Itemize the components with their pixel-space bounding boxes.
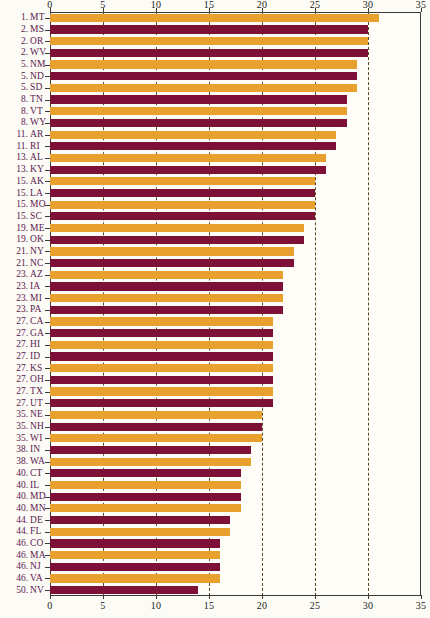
bar-rank-label: 8.	[0, 107, 28, 117]
bar	[50, 574, 220, 582]
bar-row: 27.GA	[0, 327, 430, 339]
bar-rank-label: 35.	[0, 422, 28, 432]
bar	[50, 364, 273, 372]
bar	[50, 481, 241, 489]
bar-row: 44.FL	[0, 526, 430, 538]
bar-row: 2.OR	[0, 35, 430, 47]
bar-category-label: CA	[30, 317, 46, 327]
bar	[50, 84, 357, 92]
bar-row: 46.NJ	[0, 561, 430, 573]
bar-rank-label: 40.	[0, 504, 28, 514]
bar-rank-label: 35.	[0, 410, 28, 420]
bar-rank-label: 46.	[0, 562, 28, 572]
bar-row: 46.CO	[0, 538, 430, 550]
bar-category-label: DE	[30, 516, 46, 526]
bar-rank-label: 13.	[0, 165, 28, 175]
bar	[50, 551, 220, 559]
bar-rank-label: 11.	[0, 130, 28, 140]
bar-row: 27.CA	[0, 316, 430, 328]
bar-rank-label: 21.	[0, 247, 28, 257]
bar-category-label: MD	[30, 492, 46, 502]
bar-rank-label: 35.	[0, 434, 28, 444]
bar-row: 27.ID	[0, 351, 430, 363]
bar-category-label: WV	[30, 48, 46, 58]
bar-rank-label: 23.	[0, 282, 28, 292]
bar	[50, 49, 368, 57]
bar-rank-label: 27.	[0, 317, 28, 327]
bar-row: 40.CT	[0, 468, 430, 480]
bar-rank-label: 5.	[0, 72, 28, 82]
bar-category-label: MI	[30, 294, 46, 304]
bar-row: 8.WY	[0, 117, 430, 129]
bar-row: 44.DE	[0, 514, 430, 526]
bar-rank-label: 27.	[0, 340, 28, 350]
bar-row: 23.PA	[0, 304, 430, 316]
bar-row: 27.UT	[0, 397, 430, 409]
bar	[50, 411, 262, 419]
bar-rank-label: 38.	[0, 445, 28, 455]
bar	[50, 142, 336, 150]
bar	[50, 60, 357, 68]
bar-row: 46.MA	[0, 549, 430, 561]
bar	[50, 282, 283, 290]
bar-row: 5.SD	[0, 82, 430, 94]
bar-rank-label: 38.	[0, 457, 28, 467]
bar	[50, 539, 220, 547]
bar	[50, 516, 230, 524]
bar-rank-label: 21.	[0, 259, 28, 269]
bar-rank-label: 27.	[0, 329, 28, 339]
bar	[50, 72, 357, 80]
bar-category-label: VA	[30, 574, 46, 584]
bar-row: 46.VA	[0, 573, 430, 585]
bar-rank-label: 15.	[0, 177, 28, 187]
bar-row: 15.AK	[0, 176, 430, 188]
bar-rank-label: 2.	[0, 48, 28, 58]
bar-category-label: SD	[30, 83, 46, 93]
bar-category-label: MT	[30, 13, 46, 23]
bar-row: 21.NC	[0, 257, 430, 269]
bar-row: 40.MD	[0, 491, 430, 503]
bar-row: 27.HI	[0, 339, 430, 351]
bar	[50, 212, 315, 220]
bar-rank-label: 40.	[0, 469, 28, 479]
bar-rank-label: 1.	[0, 13, 28, 23]
bar-row: 21.NY	[0, 246, 430, 258]
bar-row: 40.MN	[0, 503, 430, 515]
bar-category-label: ME	[30, 224, 46, 234]
bar-rank-label: 40.	[0, 481, 28, 491]
bar-row: 2.WV	[0, 47, 430, 59]
bar-rank-label: 5.	[0, 83, 28, 93]
bar-rank-label: 13.	[0, 153, 28, 163]
x-tick-label-bottom: 0	[47, 600, 52, 611]
bar-category-label: TN	[30, 95, 46, 105]
bar	[50, 493, 241, 501]
bar-row: 50.NV	[0, 584, 430, 596]
bar	[50, 107, 347, 115]
x-tick-label-bottom: 10	[151, 600, 162, 611]
bar-rank-label: 44.	[0, 527, 28, 537]
bar-category-label: HI	[30, 340, 46, 350]
bar-row: 8.VT	[0, 105, 430, 117]
bar-rank-label: 27.	[0, 375, 28, 385]
bar-category-label: AK	[30, 177, 46, 187]
bar	[50, 341, 273, 349]
bar	[50, 154, 326, 162]
bar-row: 35.NH	[0, 421, 430, 433]
bar-category-label: VT	[30, 107, 46, 117]
bar	[50, 131, 336, 139]
bar	[50, 586, 198, 594]
bar-row: 15.MO	[0, 199, 430, 211]
bar	[50, 236, 304, 244]
bar-category-label: NV	[30, 586, 46, 596]
bar-row: 38.IN	[0, 444, 430, 456]
bar-category-label: WY	[30, 118, 46, 128]
bar	[50, 177, 315, 185]
bar-category-label: NH	[30, 422, 46, 432]
bar-category-label: NM	[30, 60, 46, 70]
bar-category-label: AL	[30, 153, 46, 163]
bar-rank-label: 15.	[0, 212, 28, 222]
bar-category-label: ID	[30, 352, 46, 362]
bar-rank-label: 46.	[0, 574, 28, 584]
bar-row: 27.TX	[0, 386, 430, 398]
bar-row: 27.KS	[0, 362, 430, 374]
